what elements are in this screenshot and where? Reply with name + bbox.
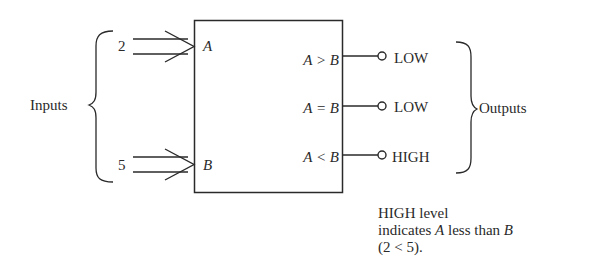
input-a-label: A xyxy=(203,39,212,54)
explanation-note: HIGH level indicates A less than B (2 < … xyxy=(378,205,513,256)
note-line-1: HIGH level xyxy=(378,205,513,222)
output-a-eq-b-line xyxy=(342,102,386,110)
output-a-gt-b-line xyxy=(342,52,386,60)
input-b-label: B xyxy=(203,158,212,173)
input-b-value: 5 xyxy=(118,158,126,173)
outputs-label: Outputs xyxy=(479,101,527,116)
inputs-label: Inputs xyxy=(30,98,68,113)
output-a-gt-b-label: A > B xyxy=(303,53,339,68)
note-line-2: indicates A less than B xyxy=(378,222,513,239)
output-a-lt-b-label: A < B xyxy=(303,150,339,165)
outputs-brace-icon xyxy=(456,42,477,173)
output-a-lt-b-level: HIGH xyxy=(392,150,430,165)
input-a-arrow-icon xyxy=(133,31,194,62)
input-b-arrow-icon xyxy=(133,149,194,180)
output-a-gt-b-level: LOW xyxy=(394,51,428,66)
output-a-eq-b-level: LOW xyxy=(394,100,428,115)
output-a-eq-b-label: A = B xyxy=(303,101,339,116)
output-a-lt-b-line xyxy=(342,151,386,159)
input-a-value: 2 xyxy=(118,39,126,54)
note-line-3: (2 < 5). xyxy=(378,239,513,256)
inputs-brace-icon xyxy=(89,31,113,182)
